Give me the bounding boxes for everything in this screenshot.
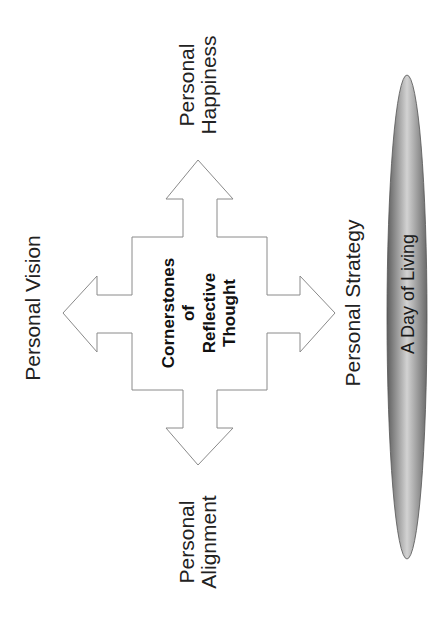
label-left-line-1: Personal Vision <box>22 235 44 381</box>
center-line-4: Thought <box>220 258 240 369</box>
center-title: Cornerstones of Reflective Thought <box>159 258 241 369</box>
label-top-line-2: Happiness <box>198 35 220 134</box>
label-personal-happiness: Personal Happiness <box>176 35 220 134</box>
label-bottom-line-2: Alignment <box>198 495 220 588</box>
ellipse-label: A Day of Living <box>399 234 418 354</box>
label-personal-strategy: Personal Strategy <box>342 220 364 387</box>
label-personal-alignment: Personal Alignment <box>176 495 220 588</box>
label-top-line-1: Personal <box>176 35 198 134</box>
label-personal-vision: Personal Vision <box>22 235 44 381</box>
center-line-2: of <box>180 258 200 369</box>
diagram-canvas: Cornerstones of Reflective Thought Perso… <box>0 0 447 617</box>
center-line-1: Cornerstones <box>159 258 179 369</box>
label-bottom-line-1: Personal <box>176 495 198 588</box>
ellipse-label-text: A Day of Living <box>399 234 418 354</box>
center-line-3: Reflective <box>200 258 220 369</box>
label-right-line-1: Personal Strategy <box>342 220 364 387</box>
